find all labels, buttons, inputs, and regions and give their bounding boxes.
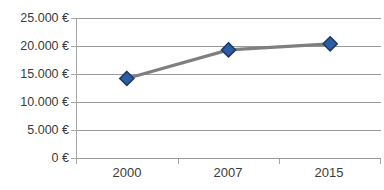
data-series	[0, 0, 384, 190]
data-point-2015	[323, 37, 337, 51]
data-point-2007	[222, 43, 236, 57]
data-point-2000	[120, 71, 134, 85]
line-chart: 25.000 € 20.000 € 15.000 € 10.000 € 5.00…	[0, 0, 384, 190]
